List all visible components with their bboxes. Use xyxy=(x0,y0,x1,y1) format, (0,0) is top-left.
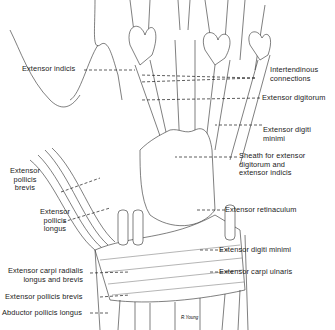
label-extensor-pollicis-longus: Extensor pollicis longus xyxy=(40,208,70,234)
label-extensor-retinaculum: Extensor retinaculum xyxy=(225,206,296,215)
label-extensor-pollicis-brevis-lower: Extensor pollicis brevis xyxy=(5,293,83,302)
label-extensor-carpi-radialis: Extensor carpi radialis longus and brevi… xyxy=(8,267,83,284)
label-extensor-pollicis-brevis-upper: Extensor pollicis brevis xyxy=(10,167,40,193)
illustrator-signature: R.Young xyxy=(181,315,199,320)
label-extensor-carpi-ulnaris: Extensor carpi ulnaris xyxy=(219,268,292,277)
label-extensor-digitorum: Extensor digitorum xyxy=(262,94,325,103)
label-sheath-extensor: Sheath for extensor digitorum and extens… xyxy=(239,152,305,178)
label-extensor-indicis: Extensor indicis xyxy=(22,65,75,74)
label-abductor-pollicis-longus: Abductor pollicis longus xyxy=(2,309,82,318)
label-intertendinous-connections: Intertendinous connections xyxy=(270,66,318,83)
label-extensor-digiti-minimi-lower: Extensor digiti minimi xyxy=(219,246,291,255)
label-extensor-digiti-minimi-upper: Extensor digiti minimi xyxy=(263,126,311,143)
